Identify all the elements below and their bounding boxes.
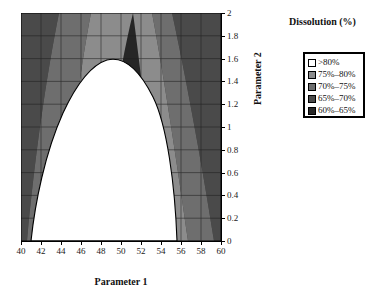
y-tick xyxy=(221,104,225,105)
x-tick xyxy=(21,241,22,245)
legend-swatch-65-70 xyxy=(308,95,316,103)
legend-item: 65%–70% xyxy=(308,93,360,104)
legend-label: 65%–70% xyxy=(318,94,356,103)
x-tick-label: 54 xyxy=(151,246,171,257)
y-tick xyxy=(221,59,225,60)
y-tick-label: 1.4 xyxy=(227,77,238,86)
y-tick xyxy=(221,81,225,82)
y-tick xyxy=(221,195,225,196)
x-tick xyxy=(101,241,102,245)
legend-item: 75%–80% xyxy=(308,69,360,80)
x-tick xyxy=(161,241,162,245)
x-tick-label: 48 xyxy=(91,246,111,257)
x-tick xyxy=(141,241,142,245)
legend-swatch-60-65 xyxy=(308,107,316,115)
y-tick-label: 2 xyxy=(227,9,232,18)
y-tick-label: 1.2 xyxy=(227,100,238,109)
y-tick-label: 0.4 xyxy=(227,191,238,200)
y-tick xyxy=(221,218,225,219)
legend-box: >80% 75%–80% 70%–75% 65%–70% 60%–65% xyxy=(303,52,365,118)
y-tick xyxy=(221,173,225,174)
y-tick xyxy=(221,241,225,242)
y-tick xyxy=(221,150,225,151)
x-tick xyxy=(181,241,182,245)
contour-plot-svg xyxy=(21,13,221,241)
y-tick-label: 1 xyxy=(227,123,232,132)
y-tick-label: 0.8 xyxy=(227,146,238,155)
x-tick-label: 44 xyxy=(51,246,71,257)
contour-chart-figure: 40 42 44 46 48 50 52 54 56 58 60 Paramet… xyxy=(0,0,391,301)
x-tick-label: 58 xyxy=(191,246,211,257)
x-tick xyxy=(201,241,202,245)
plot-area xyxy=(21,13,221,241)
legend-label: >80% xyxy=(318,58,340,67)
legend-swatch-above-80 xyxy=(308,59,316,67)
legend-item: 60%–65% xyxy=(308,105,360,116)
legend-label: 70%–75% xyxy=(318,82,356,91)
legend-item: >80% xyxy=(308,57,360,68)
x-tick-label: 56 xyxy=(171,246,191,257)
legend-swatch-75-80 xyxy=(308,71,316,79)
y-tick-label: 0.6 xyxy=(227,169,238,178)
legend-item: 70%–75% xyxy=(308,81,360,92)
x-tick-label: 60 xyxy=(211,246,231,257)
y-tick xyxy=(221,127,225,128)
y-tick-label: 0.2 xyxy=(227,214,238,223)
x-tick xyxy=(61,241,62,245)
x-axis-title: Parameter 1 xyxy=(21,276,221,287)
x-tick-label: 52 xyxy=(131,246,151,257)
y-tick xyxy=(221,36,225,37)
legend-title: Dissolution (%) xyxy=(289,16,356,27)
x-tick-label: 40 xyxy=(11,246,31,257)
y-tick xyxy=(221,13,225,14)
y-tick-label: 1.8 xyxy=(227,32,238,41)
y-axis-title: Parameter 2 xyxy=(252,52,263,105)
y-tick-label: 1.6 xyxy=(227,55,238,64)
legend-label: 75%–80% xyxy=(318,70,356,79)
x-tick xyxy=(41,241,42,245)
legend-label: 60%–65% xyxy=(318,106,356,115)
x-tick xyxy=(121,241,122,245)
x-tick-label: 42 xyxy=(31,246,51,257)
legend-swatch-70-75 xyxy=(308,83,316,91)
y-tick-label: 0 xyxy=(227,237,232,246)
x-tick xyxy=(81,241,82,245)
x-tick-label: 46 xyxy=(71,246,91,257)
x-tick-label: 50 xyxy=(111,246,131,257)
